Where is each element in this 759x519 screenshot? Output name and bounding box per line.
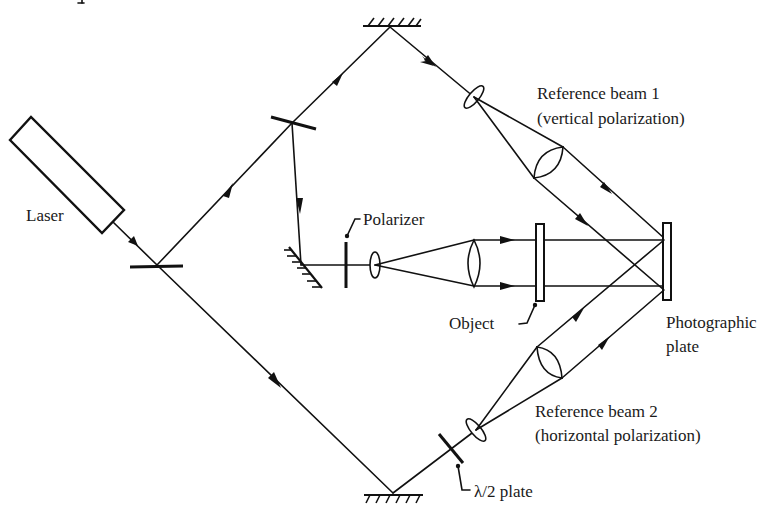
half-wave-plate bbox=[439, 434, 470, 490]
beam-ref1-upper bbox=[563, 147, 664, 238]
plate-label-line2: plate bbox=[666, 337, 699, 356]
arrow-icon bbox=[500, 282, 515, 290]
ref1-label-line1: Reference beam 1 bbox=[537, 84, 660, 103]
object-label: Object bbox=[449, 314, 495, 333]
arrow-icon bbox=[500, 236, 515, 244]
laser-label: Laser bbox=[26, 206, 64, 225]
beam-splitter-1 bbox=[130, 266, 183, 267]
lens-ref1-large bbox=[534, 147, 563, 178]
beam-obj-div-upper bbox=[375, 240, 474, 265]
ref2-label-line1: Reference beam 2 bbox=[535, 402, 658, 421]
beam-ref2-upper bbox=[537, 240, 664, 347]
beam-ref2-div-upper bbox=[476, 347, 537, 430]
arrow-icon bbox=[223, 183, 233, 198]
beam-ref1-lower bbox=[534, 178, 664, 290]
polarizer-label: Polarizer bbox=[363, 210, 425, 229]
top-mirror bbox=[363, 18, 421, 26]
arrow-icon bbox=[600, 182, 612, 194]
arrow-icon bbox=[332, 73, 343, 86]
lens-ref2-large bbox=[537, 347, 562, 378]
halfwave-label: λ/2 plate bbox=[474, 482, 533, 501]
scan-artifact bbox=[78, 0, 84, 3]
object-leader bbox=[519, 303, 537, 324]
polarizer bbox=[345, 219, 360, 288]
object-mirror bbox=[284, 247, 322, 288]
photographic-plate bbox=[663, 223, 671, 300]
beam-obj-div-lower bbox=[375, 265, 474, 286]
bottom-mirror bbox=[364, 495, 423, 503]
ref1-label-line2: (vertical polarization) bbox=[537, 109, 685, 128]
plate-label-line1: Photographic bbox=[666, 313, 757, 332]
beam-bs1-bs2 bbox=[157, 123, 292, 265]
beam-bs2-objmirror bbox=[292, 123, 301, 265]
beam-ref1-div-lower bbox=[474, 97, 534, 178]
ref2-label-line2: (horizontal polarization) bbox=[535, 426, 701, 445]
beam-ref2-lower bbox=[562, 290, 664, 378]
laser bbox=[10, 117, 157, 265]
lens-object-large bbox=[468, 240, 480, 287]
beam-splitter-2 bbox=[271, 117, 316, 129]
holography-diagram: Laser bbox=[0, 0, 759, 519]
object bbox=[536, 224, 544, 301]
arrow-icon bbox=[598, 336, 610, 350]
